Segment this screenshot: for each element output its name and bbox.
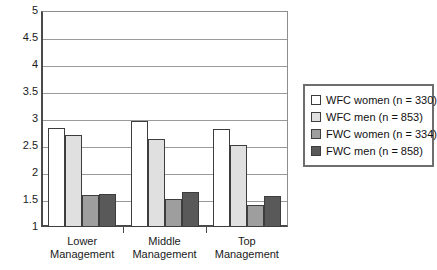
legend-item: FWC men (n = 858) [311, 142, 426, 159]
y-axis-tick-label: 2 [4, 167, 38, 178]
legend-swatch-icon [311, 129, 321, 139]
y-axis-tick-label: 4.5 [4, 32, 38, 43]
y-axis-tick-label: 1.5 [4, 194, 38, 205]
x-axis-group-label-line: Management [192, 248, 302, 261]
legend-label: FWC men (n = 858) [326, 145, 423, 157]
gridline [43, 120, 287, 121]
x-axis-group-label-line: Top [192, 235, 302, 248]
x-axis-group-label: TopManagement [192, 235, 302, 261]
y-axis-tick-label: 5 [4, 5, 38, 16]
gridline [43, 201, 287, 202]
gridline [43, 93, 287, 94]
gridline [43, 174, 287, 175]
legend-item: FWC women (n = 334) [311, 125, 426, 142]
legend-swatch-icon [311, 95, 321, 105]
x-axis-tick [206, 227, 207, 233]
legend-label: WFC women (n = 330) [326, 94, 437, 106]
y-axis-tick-label: 4 [4, 59, 38, 70]
grouped-bar-chart: 11.522.533.544.55 LowerManagementMiddleM… [0, 0, 437, 270]
y-axis: 11.522.533.544.55 [0, 11, 38, 227]
y-axis-tick-label: 3.5 [4, 86, 38, 97]
legend-label: FWC women (n = 334) [326, 128, 437, 140]
legend-item: WFC men (n = 853) [311, 108, 426, 125]
legend-label: WFC men (n = 853) [326, 111, 423, 123]
gridline [43, 66, 287, 67]
y-axis-tick-label: 3 [4, 113, 38, 124]
legend-swatch-icon [311, 112, 321, 122]
legend-swatch-icon [311, 146, 321, 156]
chart-legend: WFC women (n = 330)WFC men (n = 853)FWC … [303, 84, 434, 167]
gridline [43, 147, 287, 148]
gridline [43, 39, 287, 40]
legend-item: WFC women (n = 330) [311, 91, 426, 108]
y-axis-tick-label: 1 [4, 221, 38, 232]
plot-area [41, 11, 288, 227]
y-axis-tick-label: 2.5 [4, 140, 38, 151]
x-axis-tick [123, 227, 124, 233]
